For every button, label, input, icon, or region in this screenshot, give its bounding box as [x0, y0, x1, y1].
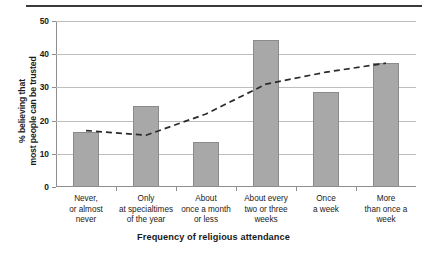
- y-axis-title: % believing that most people can be trus…: [17, 21, 39, 201]
- y-axis-tick-label: 50: [40, 16, 49, 26]
- x-axis-label-line: once a month: [176, 205, 236, 216]
- x-axis-label-line: two or three: [236, 205, 296, 216]
- x-axis-label-line: of the year: [116, 215, 176, 226]
- header-rule: [26, 5, 422, 7]
- y-axis-title-line-2: most people can be trusted: [28, 21, 39, 201]
- x-axis-title: Frequency of religious attendance: [0, 232, 427, 242]
- x-axis-labels: Never,or almostneverOnlyat specialtimeso…: [56, 194, 416, 236]
- x-axis-label: Onlyat specialtimesof the year: [116, 194, 176, 226]
- x-axis-label: Oncea week: [296, 194, 356, 215]
- x-axis-label: Never,or almostnever: [56, 194, 116, 226]
- y-axis-tick: [52, 187, 56, 188]
- x-axis-label-line: Only: [116, 194, 176, 205]
- y-axis-title-line-1: % believing that: [17, 21, 28, 201]
- x-axis-label: Aboutonce a monthor less: [176, 194, 236, 226]
- x-axis-label-line: Once: [296, 194, 356, 205]
- x-axis-tick: [236, 187, 237, 191]
- x-axis-label-line: About: [176, 194, 236, 205]
- x-axis-label-line: week: [356, 215, 416, 226]
- x-axis-tick: [356, 187, 357, 191]
- x-axis-label-line: Never,: [56, 194, 116, 205]
- x-axis-label-line: About every: [236, 194, 296, 205]
- y-axis-tick-label: 30: [40, 82, 49, 92]
- x-axis-label-line: never: [56, 215, 116, 226]
- x-axis-label-line: or almost: [56, 205, 116, 216]
- x-axis-label: About everytwo or threeweeks: [236, 194, 296, 226]
- x-axis-tick: [296, 187, 297, 191]
- y-axis-tick-label: 40: [40, 49, 49, 59]
- x-axis-tick: [176, 187, 177, 191]
- y-axis-tick-label: 0: [44, 182, 49, 192]
- x-axis-label-line: or less: [176, 215, 236, 226]
- y-axis-tick-label: 20: [40, 116, 49, 126]
- x-axis-label-line: More: [356, 194, 416, 205]
- chart-figure: % believing that most people can be trus…: [0, 0, 427, 255]
- y-axis-tick-label: 10: [40, 149, 49, 159]
- x-axis-tick: [116, 187, 117, 191]
- x-axis-label: Morethan once aweek: [356, 194, 416, 226]
- x-axis-label-line: a week: [296, 205, 356, 216]
- trend-line: [56, 21, 416, 187]
- plot-area: 01020304050: [56, 21, 416, 187]
- x-axis-label-line: at specialtimes: [116, 205, 176, 216]
- x-axis-label-line: than once a: [356, 205, 416, 216]
- x-axis-label-line: weeks: [236, 215, 296, 226]
